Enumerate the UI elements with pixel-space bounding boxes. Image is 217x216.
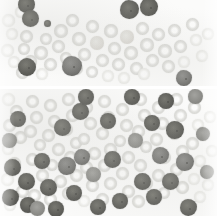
erythrocyte xyxy=(88,147,101,160)
erythrocyte xyxy=(108,42,121,55)
erythrocyte xyxy=(174,109,187,122)
erythrocyte xyxy=(42,129,55,142)
erythrocyte xyxy=(136,22,149,35)
blood-smear-figure xyxy=(0,0,217,216)
erythrocyte xyxy=(1,44,14,57)
leukocyte xyxy=(30,201,45,216)
erythrocyte xyxy=(86,20,99,33)
erythrocyte xyxy=(2,14,15,27)
leukocyte xyxy=(196,127,210,141)
micrograph-panel-top xyxy=(0,0,217,86)
leukocyte xyxy=(200,165,214,179)
erythrocyte xyxy=(202,179,214,191)
erythrocyte xyxy=(78,133,90,145)
leukocyte xyxy=(44,20,51,27)
erythrocyte xyxy=(104,24,118,38)
erythrocyte xyxy=(114,135,126,147)
erythrocyte xyxy=(44,99,57,112)
erythrocyte xyxy=(118,72,130,84)
erythrocyte xyxy=(18,43,30,55)
erythrocyte xyxy=(116,167,129,180)
micrograph-panel-bottom xyxy=(0,89,217,216)
erythrocyte xyxy=(202,28,214,40)
erythrocyte xyxy=(168,24,181,37)
leukocyte xyxy=(2,133,17,148)
erythrocyte xyxy=(52,40,65,53)
erythrocyte xyxy=(134,159,147,172)
erythrocyte xyxy=(24,125,37,138)
erythrocyte xyxy=(96,54,109,67)
erythrocyte xyxy=(90,36,104,50)
erythrocyte xyxy=(36,68,48,80)
erythrocyte xyxy=(162,60,175,73)
erythrocyte xyxy=(34,46,48,60)
erythrocyte xyxy=(102,70,114,82)
erythrocyte xyxy=(112,58,125,71)
erythrocyte xyxy=(72,32,86,46)
erythrocyte xyxy=(138,68,150,80)
erythrocyte xyxy=(116,103,129,116)
erythrocyte xyxy=(6,28,18,40)
erythrocyte xyxy=(190,34,202,46)
cell-field-bottom xyxy=(0,89,217,216)
erythrocyte xyxy=(86,66,98,78)
erythrocyte xyxy=(194,191,206,203)
erythrocyte xyxy=(26,95,39,108)
erythrocyte xyxy=(140,38,154,52)
erythrocyte xyxy=(174,40,187,53)
erythrocyte xyxy=(54,24,68,38)
erythrocyte xyxy=(152,28,165,41)
erythrocyte xyxy=(158,44,172,58)
erythrocyte xyxy=(178,56,190,68)
erythrocyte xyxy=(206,145,217,157)
erythrocyte xyxy=(84,117,97,130)
erythrocyte xyxy=(20,30,33,43)
erythrocyte xyxy=(132,195,145,208)
erythrocyte xyxy=(150,133,163,146)
erythrocyte xyxy=(196,50,208,62)
erythrocyte xyxy=(30,111,43,124)
erythrocyte xyxy=(122,151,135,164)
erythrocyte xyxy=(2,93,15,106)
leukocyte xyxy=(48,201,64,216)
erythrocyte xyxy=(204,111,216,123)
erythrocyte xyxy=(104,177,117,190)
erythrocyte xyxy=(188,173,200,185)
leukocyte xyxy=(86,167,101,182)
cell-field-top xyxy=(0,0,217,86)
erythrocyte xyxy=(66,14,79,27)
erythrocyte xyxy=(120,30,134,44)
erythrocyte xyxy=(186,18,199,31)
erythrocyte xyxy=(40,33,52,45)
erythrocyte xyxy=(146,54,159,67)
leukocyte xyxy=(188,89,203,104)
erythrocyte xyxy=(52,143,65,156)
erythrocyte xyxy=(98,95,111,108)
erythrocyte xyxy=(124,46,138,60)
erythrocyte xyxy=(62,93,75,106)
